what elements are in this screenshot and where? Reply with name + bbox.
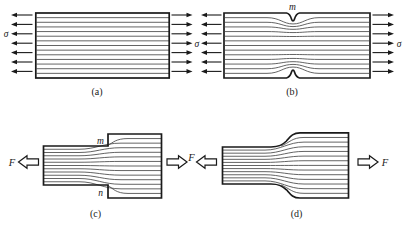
force-arrow-d-left [197, 156, 217, 168]
caption-c: (c) [90, 208, 101, 220]
force-arrow-d-right [358, 156, 378, 168]
force-label-middle: F [187, 152, 195, 163]
stress-arrows-b-right [373, 13, 395, 74]
panel-b: m σ σ (b) [194, 2, 401, 99]
stress-label-middle: σ [194, 39, 199, 49]
flow-lines-a [37, 18, 170, 74]
corner-label-n: n [98, 188, 103, 198]
stress-label-right: σ [397, 39, 402, 49]
panel-a: σ (a) [4, 13, 193, 98]
flow-lines-b [225, 18, 369, 74]
stress-arrows-a-left [11, 13, 33, 74]
force-arrow-c-left [19, 156, 39, 168]
force-label-right: F [381, 157, 389, 168]
figure-canvas: σ (a) m σ σ (b) F m n (c) F F (d) [0, 0, 404, 235]
flow-lines-d [223, 137, 348, 193]
caption-a: (a) [91, 86, 102, 98]
stress-arrows-b-left [201, 13, 222, 74]
diagram-svg: σ (a) m σ σ (b) F m n (c) F F (d) [0, 0, 404, 235]
panel-d: F F (d) [187, 133, 389, 220]
panel-c: F m n (c) [8, 134, 187, 220]
force-arrow-c-right [167, 156, 187, 168]
caption-b: (b) [286, 86, 298, 98]
notch-label-m: m [289, 2, 296, 12]
force-label-left: F [8, 157, 16, 168]
stress-arrows-a-right [172, 13, 193, 74]
caption-d: (d) [291, 208, 303, 220]
corner-label-m: m [97, 136, 104, 146]
stress-label-left: σ [4, 29, 9, 39]
